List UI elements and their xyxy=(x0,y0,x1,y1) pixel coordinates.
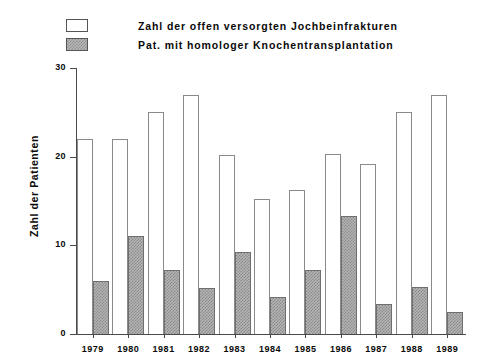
bar-open xyxy=(254,199,270,334)
bar-group xyxy=(360,68,392,334)
open-rect-icon xyxy=(66,19,88,32)
x-axis-tick-label: 1987 xyxy=(356,344,396,354)
x-axis-tick-label: 1985 xyxy=(285,344,325,354)
bar-chart: Zahl der offen versorgten Jochbeinfraktu… xyxy=(0,0,480,359)
bar-hatched xyxy=(341,216,357,334)
bar-group xyxy=(325,68,357,334)
x-axis-tick-label: 1989 xyxy=(427,344,467,354)
x-axis-tick xyxy=(412,334,413,338)
bar-hatched xyxy=(128,236,144,334)
y-axis-tick-label: 10 xyxy=(55,239,66,249)
chart-legend: Zahl der offen versorgten Jochbeinfraktu… xyxy=(66,16,406,54)
bar-hatched xyxy=(447,312,463,334)
bar-hatched xyxy=(305,270,321,334)
x-axis-tick xyxy=(341,334,342,338)
bar-hatched xyxy=(376,304,392,334)
bar-open xyxy=(112,139,128,334)
bar-group xyxy=(183,68,215,334)
x-axis-tick-label: 1980 xyxy=(108,344,148,354)
bar-group xyxy=(431,68,463,334)
bar-open xyxy=(219,155,235,334)
bar-hatched xyxy=(235,252,251,334)
plot-area: 0102030 19791980198119821983198419851986… xyxy=(76,68,466,334)
x-axis-tick xyxy=(199,334,200,338)
x-axis-tick xyxy=(235,334,236,338)
bar-open xyxy=(148,112,164,334)
bar-open xyxy=(289,190,305,334)
bar-group xyxy=(289,68,321,334)
y-axis-title: Zahl der Patienten xyxy=(28,106,40,266)
bar-open xyxy=(360,164,376,334)
legend-item-hatched: Pat. mit homologer Knochentransplantatio… xyxy=(66,35,406,54)
x-axis-tick-label: 1984 xyxy=(250,344,290,354)
y-axis-tick-label: 0 xyxy=(61,328,66,338)
x-axis-tick xyxy=(270,334,271,338)
bar-series-container xyxy=(76,68,466,334)
x-axis-tick-label: 1988 xyxy=(392,344,432,354)
x-axis-line xyxy=(76,334,466,335)
bar-group xyxy=(219,68,251,334)
bar-open xyxy=(431,95,447,334)
x-axis-tick xyxy=(305,334,306,338)
bar-hatched xyxy=(199,288,215,334)
bar-group xyxy=(112,68,144,334)
x-axis-tick-label: 1982 xyxy=(179,344,219,354)
x-axis-tick-label: 1979 xyxy=(73,344,113,354)
legend-item-label: Pat. mit homologer Knochentransplantatio… xyxy=(138,39,394,51)
bar-open xyxy=(183,95,199,334)
bar-open xyxy=(325,154,341,334)
y-axis-tick-label: 20 xyxy=(55,151,66,161)
x-axis-tick xyxy=(447,334,448,338)
bar-hatched xyxy=(270,297,286,334)
x-axis-tick xyxy=(376,334,377,338)
bar-open xyxy=(396,112,412,334)
bar-hatched xyxy=(93,281,109,334)
x-axis-tick xyxy=(128,334,129,338)
x-axis-tick xyxy=(164,334,165,338)
bar-open xyxy=(77,139,93,334)
bar-group xyxy=(254,68,286,334)
legend-item-label: Zahl der offen versorgten Jochbeinfraktu… xyxy=(138,20,398,32)
bar-group xyxy=(77,68,109,334)
y-axis-tick-label: 30 xyxy=(55,62,66,72)
bar-group xyxy=(148,68,180,334)
x-axis-tick-label: 1983 xyxy=(215,344,255,354)
bar-hatched xyxy=(412,287,428,334)
y-axis-tick: 0 xyxy=(70,334,76,335)
x-axis-tick xyxy=(93,334,94,338)
bar-group xyxy=(396,68,428,334)
x-axis-tick-label: 1981 xyxy=(144,344,184,354)
bar-hatched xyxy=(164,270,180,334)
legend-item-open: Zahl der offen versorgten Jochbeinfraktu… xyxy=(66,16,406,35)
x-axis-tick-label: 1986 xyxy=(321,344,361,354)
hatched-rect-icon xyxy=(66,38,88,51)
